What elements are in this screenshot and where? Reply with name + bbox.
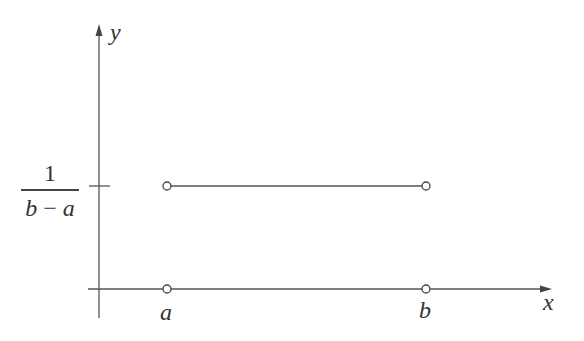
- y-axis-label: y: [110, 20, 121, 44]
- fraction-denominator: b − a: [15, 195, 85, 221]
- density-value-label: 1 b − a: [15, 160, 85, 221]
- tick-label-b: b: [419, 298, 431, 322]
- denominator-b: b: [25, 195, 37, 221]
- y-axis-arrow-icon: [96, 24, 103, 36]
- open-point-b-axis: [422, 285, 430, 293]
- open-point-a-axis: [163, 285, 171, 293]
- tick-label-a: a: [160, 300, 172, 324]
- denominator-a: a: [63, 195, 75, 221]
- x-axis-label: x: [543, 290, 554, 314]
- fraction-bar: [21, 189, 79, 191]
- diagram-canvas: [0, 0, 584, 341]
- open-endpoint-b-top: [422, 182, 430, 190]
- open-endpoint-a-top: [163, 182, 171, 190]
- denominator-minus: −: [43, 195, 57, 221]
- fraction-numerator: 1: [15, 160, 85, 186]
